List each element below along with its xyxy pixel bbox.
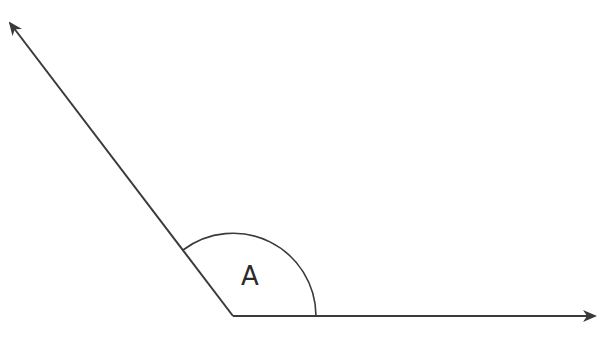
angle-diagram: A	[0, 0, 607, 347]
angle-label: A	[241, 261, 259, 291]
left-ray	[10, 23, 233, 316]
